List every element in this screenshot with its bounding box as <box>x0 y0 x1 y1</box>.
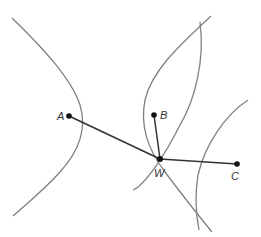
point-B <box>151 112 157 118</box>
label-C: C <box>231 170 239 182</box>
label-B: B <box>160 109 167 121</box>
hyperbola-branch-right <box>196 100 248 230</box>
hyperbola-diagram: A B W C <box>0 0 261 237</box>
segment-CW <box>160 159 237 164</box>
hyperbola-branch-middle-right <box>133 22 201 190</box>
point-W <box>157 156 163 162</box>
label-A: A <box>56 110 64 122</box>
segment-BW <box>154 115 160 159</box>
point-A <box>66 113 72 119</box>
point-C <box>234 161 240 167</box>
label-W: W <box>154 167 166 179</box>
